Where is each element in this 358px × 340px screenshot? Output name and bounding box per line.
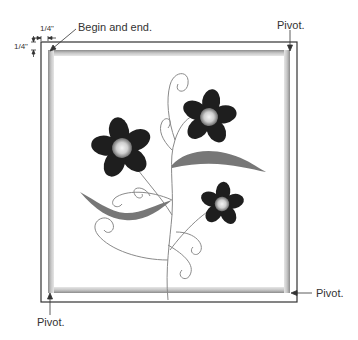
horizontal-dimension-label: 1/4" [40,24,54,33]
upper-right-flower [176,85,242,148]
outer-frame [41,42,297,302]
begin-end-label: Begin and end. [78,21,152,33]
large-left-flower [85,112,160,184]
pivot-bottom-left-label: Pivot. [37,316,65,328]
quilt-diagram [0,0,358,340]
pivot-top-right-label: Pivot. [277,19,305,31]
vertical-dimension-label: 1/4" [14,42,28,51]
pivot-bottom-right-label: Pivot. [316,287,344,299]
leader-arrows [48,29,313,315]
small-lower-right-flower [197,180,248,229]
border-band [48,50,290,293]
